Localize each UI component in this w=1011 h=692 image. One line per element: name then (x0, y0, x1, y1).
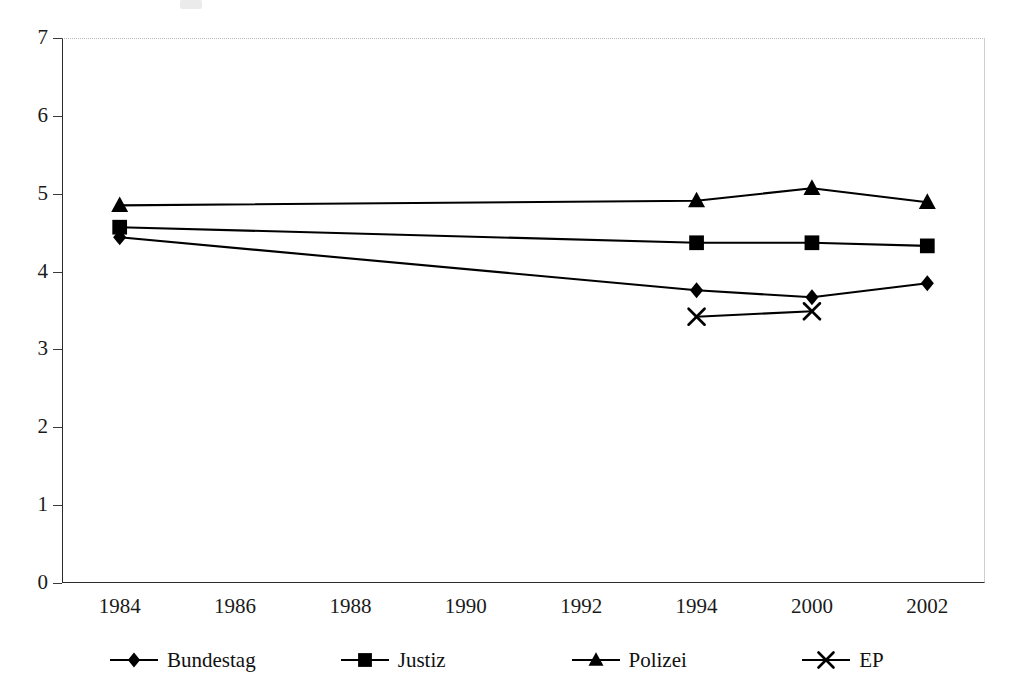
y-axis: 01234567 (0, 0, 48, 692)
y-tick-mark-2 (53, 427, 62, 428)
square-marker-icon (339, 650, 391, 670)
scan-artifact (180, 0, 202, 9)
triangle-marker-icon (570, 650, 622, 670)
y-tick-label-5: 5 (18, 183, 48, 204)
y-tick-mark-3 (53, 349, 62, 350)
diamond-marker-icon (108, 650, 160, 670)
y-tick-mark-5 (53, 194, 62, 195)
x-tick-label-1994: 1994 (637, 595, 757, 617)
x-tick-label-1990: 1990 (406, 595, 526, 617)
y-tick-label-6: 6 (18, 105, 48, 126)
legend-label: EP (859, 650, 884, 671)
y-tick-label-7: 7 (18, 27, 48, 48)
y-tick-label-1: 1 (18, 494, 48, 515)
chart-legend: BundestagJustizPolizeiEP (62, 640, 985, 680)
legend-entry-polizei[interactable]: Polizei (524, 650, 755, 671)
legend-label: Justiz (398, 650, 446, 671)
x-tick-label-1988: 1988 (290, 595, 410, 617)
y-tick-mark-4 (53, 272, 62, 273)
y-tick-label-2: 2 (18, 416, 48, 437)
plot-area (62, 38, 985, 583)
legend-label: Polizei (629, 650, 687, 671)
y-tick-label-3: 3 (18, 338, 48, 359)
y-tick-label-0: 0 (18, 572, 48, 593)
x-tick-label-1992: 1992 (521, 595, 641, 617)
x-tick-label-2000: 2000 (752, 595, 872, 617)
y-tick-mark-7 (53, 38, 62, 39)
x-tick-label-1984: 1984 (60, 595, 180, 617)
y-tick-mark-0 (53, 583, 62, 584)
legend-entry-bundestag[interactable]: Bundestag (62, 650, 293, 671)
line-chart: 01234567 1984198619881990199219942000200… (0, 0, 1011, 692)
x-marker-icon (800, 650, 852, 670)
legend-label: Bundestag (167, 650, 256, 671)
y-tick-mark-1 (53, 505, 62, 506)
x-tick-label-1986: 1986 (175, 595, 295, 617)
y-tick-mark-6 (53, 116, 62, 117)
legend-entry-ep[interactable]: EP (754, 650, 985, 671)
y-tick-label-4: 4 (18, 261, 48, 282)
legend-entry-justiz[interactable]: Justiz (293, 650, 524, 671)
x-tick-label-2002: 2002 (867, 595, 987, 617)
